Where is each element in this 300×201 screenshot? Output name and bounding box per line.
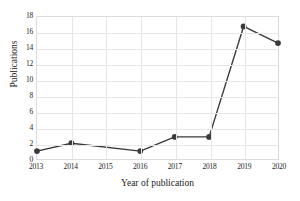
x-axis-tick-labels: 20132014201520162017201820192020 [36, 162, 279, 176]
gridline-vertical [176, 17, 177, 159]
data-point-marker [34, 148, 40, 154]
gridline-horizontal [37, 33, 278, 34]
gridline-vertical [211, 17, 212, 159]
data-point-marker [275, 40, 281, 46]
gridline-horizontal [37, 81, 278, 82]
series-overlay [37, 17, 278, 159]
gridline-vertical [141, 17, 142, 159]
gridline-horizontal [37, 97, 278, 98]
gridline-vertical [72, 17, 73, 159]
gridline-horizontal [37, 129, 278, 130]
gridline-vertical [245, 17, 246, 159]
plot-area [36, 16, 279, 160]
gridline-horizontal [37, 145, 278, 146]
gridline-vertical [106, 17, 107, 159]
x-tick-label: 2020 [259, 162, 299, 172]
gridline-horizontal [37, 49, 278, 50]
gridline-horizontal [37, 113, 278, 114]
publications-line-chart: 024681012141618 201320142015201620172018… [0, 0, 300, 201]
y-tick-label: 4 [3, 124, 33, 132]
y-axis-title: Publications [8, 14, 20, 114]
series-line [37, 26, 278, 151]
gridline-horizontal [37, 65, 278, 66]
x-axis-title: Year of publication [36, 177, 279, 189]
y-tick-label: 2 [3, 140, 33, 148]
